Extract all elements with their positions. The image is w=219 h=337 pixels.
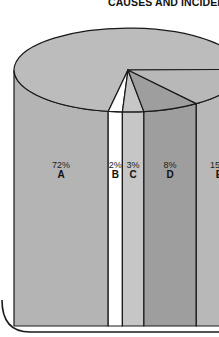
slice-e-category-label: E <box>216 169 219 180</box>
slice-b-side <box>108 111 122 326</box>
slice-c-category-label: C <box>129 169 136 180</box>
slice-d-side <box>144 104 196 326</box>
slice-e-side <box>196 70 219 326</box>
slice-a-category-label: A <box>57 169 64 180</box>
slice-c-side <box>122 112 143 326</box>
slice-d-category-label: D <box>166 169 173 180</box>
pie-chart: 72%A2%B3%C8%D15%E <box>0 0 219 337</box>
slice-b-category-label: B <box>112 169 119 180</box>
